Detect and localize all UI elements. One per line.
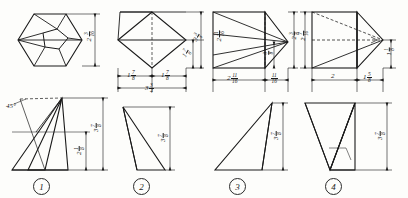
figure-4-front-dimension <box>355 103 392 170</box>
figure-number-2: 2 <box>133 178 150 195</box>
dim-fig3-body-width: 21116 <box>227 73 238 84</box>
figure-3-dimension-lines <box>213 12 298 92</box>
figure-4-dimension-lines <box>300 12 396 92</box>
figure-1-front-dimensions <box>14 98 108 170</box>
dim-fig4-body-width: 2 <box>331 73 335 80</box>
figure-number-4: 4 <box>325 178 342 195</box>
dim-fig3-apex-height: 38 <box>263 51 274 56</box>
dim-fig4-wedge-width: 158 <box>363 72 372 83</box>
figure-number-3: 3 <box>229 178 246 195</box>
dim-fig2-left-half: 178 <box>127 70 136 81</box>
dim-fig3-front-height: 378 <box>271 131 282 140</box>
figure-1-top-hexagon <box>18 14 82 66</box>
dim-fig4-body-height: 2716 <box>298 30 309 41</box>
drawing-canvas <box>0 0 408 198</box>
dim-fig1-angle: 45° <box>6 103 16 110</box>
dim-fig1-front-partial: 218 <box>74 146 85 155</box>
drawing-sheet: 2316 378 218 45° 178 178 334 178 334 378… <box>0 0 408 198</box>
figure-4-front-parallelogram <box>305 103 355 170</box>
figure-1-front-pyramid <box>12 98 90 170</box>
figure-2-top-diamond <box>118 12 186 68</box>
dim-fig2-front-height: 378 <box>158 133 169 142</box>
dim-fig3-body-height: 21116 <box>214 30 225 41</box>
dim-fig2-total-width: 334 <box>145 83 154 94</box>
figure-number-1: 1 <box>33 178 50 195</box>
dim-fig1-top-height: 2316 <box>84 30 95 41</box>
dim-fig4-front-height: 378 <box>375 131 386 140</box>
dim-fig3-wedge-width: 1116 <box>270 73 278 84</box>
dim-fig4-apex-height: 118 <box>384 47 395 55</box>
figure-3-front-triangle <box>215 103 272 170</box>
figure-4-top-wedge <box>312 12 383 68</box>
dim-fig1-front-total: 378 <box>91 123 102 132</box>
dim-fig2-right-half: 178 <box>161 70 170 81</box>
